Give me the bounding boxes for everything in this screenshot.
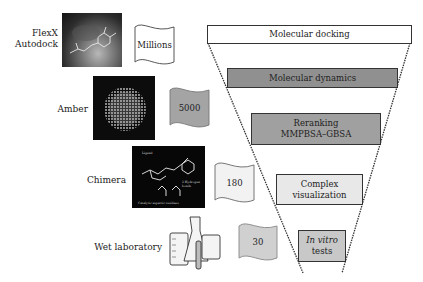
count-flag-180: 180: [213, 160, 256, 205]
count-flag-millions: Millions: [133, 22, 176, 67]
stage-molecular-docking: Molecular docking: [207, 25, 412, 44]
stage-label-line2: visualization: [292, 190, 346, 201]
tool-label-line: Chimera: [78, 175, 126, 186]
docking-complex-image: [62, 13, 122, 67]
stage-label-line1: Complex: [301, 179, 339, 190]
hbonds-annotation: 2 Hydrogen bonds: [182, 180, 204, 188]
tool-label-amber: Amber: [40, 104, 88, 115]
count-value: Millions: [133, 40, 176, 50]
stage-label-line2: tests: [312, 246, 333, 257]
count-flag-30: 30: [237, 221, 279, 263]
count-value: 180: [213, 178, 256, 188]
tool-label-line: Autodock: [10, 39, 58, 50]
ligand-structure-icon: [132, 146, 205, 208]
count-value: 30: [237, 237, 279, 247]
ligand-binding-visualization-image: Ligand 2 Hydrogen bonds Catalytic aspart…: [132, 146, 205, 208]
stage-label-line2: MMPBSA–GBSA: [281, 129, 352, 140]
protein-dynamics-image: [93, 76, 155, 140]
count-flag-5000: 5000: [168, 85, 211, 130]
beaker-flask-icon: [168, 215, 224, 271]
tool-label-wet-laboratory: Wet laboratory: [90, 242, 162, 253]
stage-reranking: Reranking MMPBSA–GBSA: [251, 113, 381, 145]
stage-label-line1: Reranking: [294, 118, 339, 129]
molecule-structure-icon: [62, 13, 122, 67]
lab-glassware-image: [168, 215, 224, 271]
stage-label: Molecular dynamics: [269, 73, 356, 84]
stage-complex-visualization: Complex visualization: [276, 174, 363, 205]
tool-label-line: Wet laboratory: [90, 242, 162, 253]
stage-label: Molecular docking: [269, 29, 349, 40]
stage-label-line1: In vitro: [306, 235, 338, 246]
tool-label-flexx-autodock: FlexX Autodock: [10, 28, 58, 50]
tool-label-line: Amber: [40, 104, 88, 115]
tool-label-chimera: Chimera: [78, 175, 126, 186]
ligand-annotation: Ligand: [142, 151, 153, 155]
stage-molecular-dynamics: Molecular dynamics: [227, 68, 398, 88]
protein-cloud-icon: [93, 76, 155, 140]
stage-in-vitro-tests: In vitro tests: [298, 230, 346, 262]
tool-label-line: FlexX: [10, 28, 58, 39]
count-value: 5000: [168, 103, 211, 113]
residues-annotation: Catalytic aspartic residues: [138, 201, 179, 205]
